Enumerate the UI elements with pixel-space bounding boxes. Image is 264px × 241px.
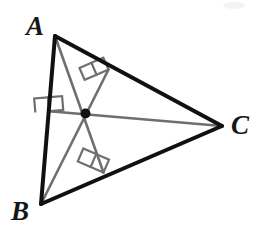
vertex-label-c: C (231, 112, 249, 139)
right-angle-mark-on-bc (78, 149, 109, 173)
vertex-label-b: B (11, 198, 29, 225)
side-bc (41, 126, 222, 204)
orthocenter-point (81, 109, 91, 119)
geometry-figure: A B C (0, 0, 264, 241)
vertex-label-a: A (26, 13, 44, 40)
side-ac (55, 36, 222, 126)
